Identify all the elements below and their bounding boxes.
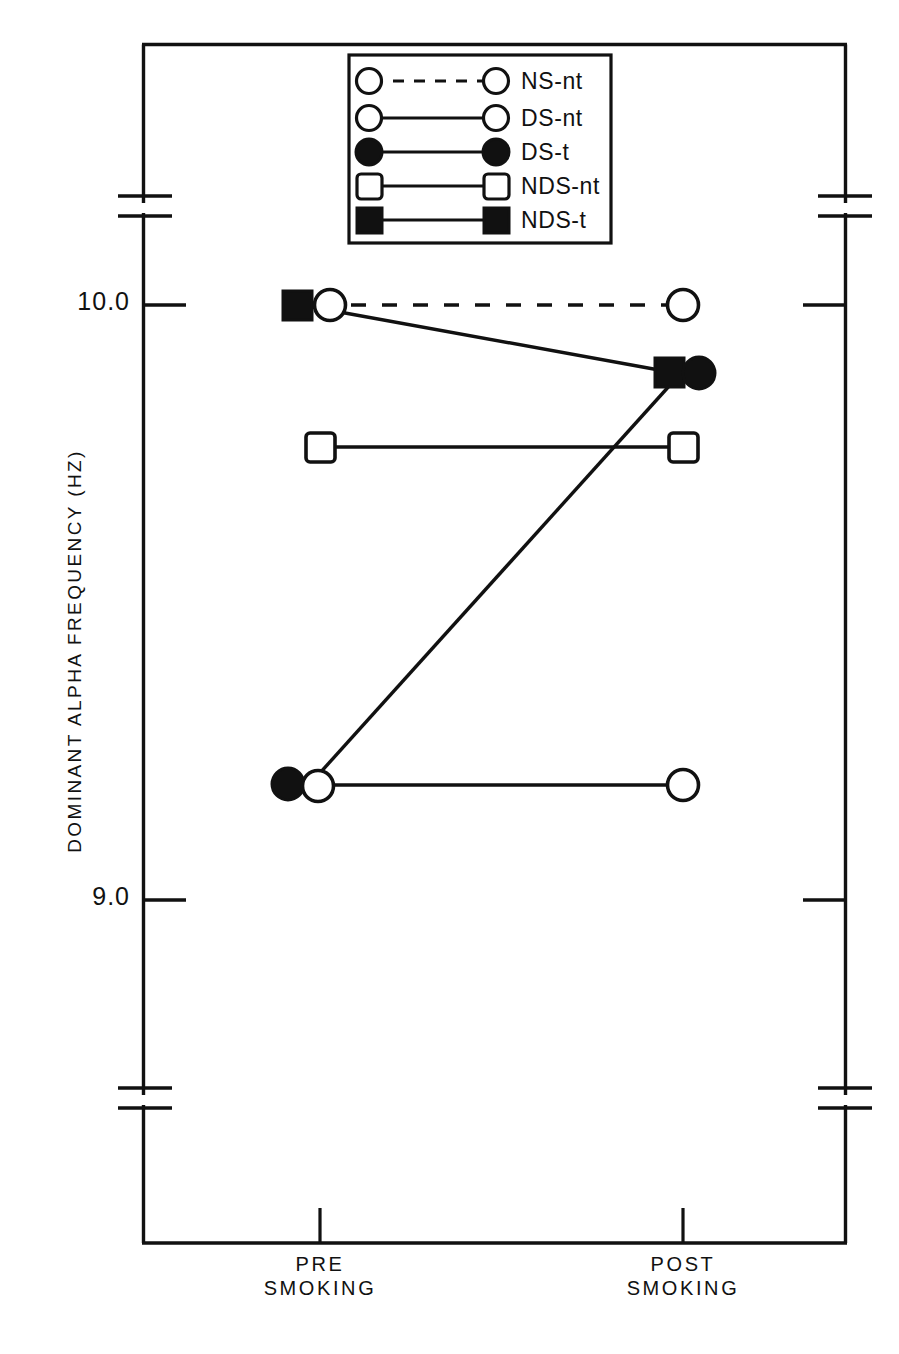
marker-ds-t-post <box>683 357 715 389</box>
marker-nds-t-pre <box>283 291 312 320</box>
marker-ns-nt-post <box>668 290 699 321</box>
legend-marker-ns-nt-left <box>357 69 382 94</box>
marker-ns-nt-pre <box>315 290 346 321</box>
x-tick-label-post-line2: SMOKING <box>583 1276 783 1300</box>
marker-nds-t-post <box>655 358 684 387</box>
legend-marker-nds-nt-right <box>484 174 509 199</box>
legend-marker-ds-nt-right <box>484 106 509 131</box>
chart-canvas <box>0 0 899 1354</box>
x-tick-label-post: POST SMOKING <box>583 1252 783 1301</box>
y-axis-title: DOMINANT ALPHA FREQUENCY (HZ) <box>64 391 86 911</box>
marker-nds-nt-post <box>669 433 698 462</box>
data-point-markers <box>272 290 715 802</box>
legend-marker-ns-nt-right <box>484 69 509 94</box>
x-tick-label-pre-line1: PRE <box>220 1252 420 1276</box>
x-tick-label-pre: PRE SMOKING <box>220 1252 420 1301</box>
data-series-lines <box>310 305 683 785</box>
series-line-ds-t <box>310 374 680 784</box>
legend-marker-ds-t-right <box>483 139 509 165</box>
legend-label-ns-nt: NS-nt <box>521 68 583 95</box>
y-tick-label-9: 9.0 <box>48 882 130 911</box>
legend-label-ds-nt: DS-nt <box>521 105 583 132</box>
legend-marker-ds-t-left <box>356 139 382 165</box>
marker-ds-t-pre <box>272 768 304 800</box>
marker-ds-nt-pre <box>303 771 334 802</box>
x-tick-label-post-line1: POST <box>583 1252 783 1276</box>
legend-marker-ds-nt-left <box>357 106 382 131</box>
axis-break-marks <box>118 196 872 1108</box>
chart-figure: DOMINANT ALPHA FREQUENCY (HZ) 10.0 9.0 P… <box>0 0 899 1354</box>
legend-marker-nds-nt-left <box>357 174 382 199</box>
legend-label-nds-nt: NDS-nt <box>521 173 600 200</box>
legend-marker-nds-t-left <box>357 208 382 233</box>
marker-nds-nt-pre <box>306 433 335 462</box>
y-axis-ticks <box>144 305 845 900</box>
marker-ds-nt-post <box>668 770 699 801</box>
legend-marker-nds-t-right <box>484 208 509 233</box>
legend-label-ds-t: DS-t <box>521 139 569 166</box>
y-tick-label-10: 10.0 <box>40 287 130 316</box>
series-line-nds-t <box>312 307 670 372</box>
x-tick-label-pre-line2: SMOKING <box>220 1276 420 1300</box>
legend-label-nds-t: NDS-t <box>521 207 587 234</box>
x-axis-ticks <box>320 1208 683 1243</box>
